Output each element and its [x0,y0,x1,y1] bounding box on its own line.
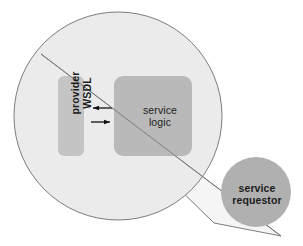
diagram-canvas: provider WSDL service logic service requ… [0,0,303,246]
provider-wsdl-label: provider WSDL [70,57,92,129]
service-requestor-label: service requestor [216,183,298,207]
service-logic-label: service logic [123,105,197,129]
